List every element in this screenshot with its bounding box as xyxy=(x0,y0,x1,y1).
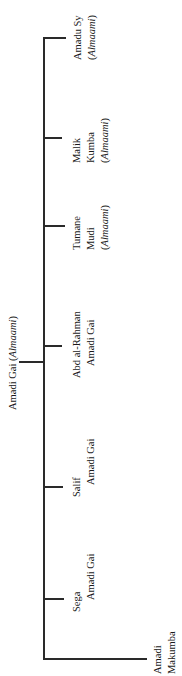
branch-abd-al-rahman xyxy=(43,345,62,347)
node-name-line2: Amadi Gai xyxy=(84,311,98,378)
node-name-line1: Sega xyxy=(70,554,84,612)
trunk-line xyxy=(43,37,45,659)
node-name-line1: Salif xyxy=(70,439,84,497)
parent-connector xyxy=(19,361,44,363)
node-name-line2: Amadi Gai xyxy=(84,439,98,497)
branch-tumane-mudi xyxy=(43,225,65,227)
node-name-line1: Malik xyxy=(70,118,84,163)
node-abd-al-rahman: Abd al-Rahman Amadi Gai xyxy=(70,311,98,378)
node-name-line2: Amadi Gai xyxy=(84,554,98,612)
node-title: Almaami xyxy=(99,209,110,247)
node-name-line2: Kumba xyxy=(84,118,98,163)
node-title: Almaami xyxy=(86,19,97,57)
parent-title: Almaami xyxy=(7,320,18,358)
node-amadu-sy: Amadu Sy (Almaami) xyxy=(71,15,99,60)
node-name-line1: Amadi xyxy=(151,631,165,674)
node-name-line2: Mudi xyxy=(84,205,98,250)
node-name: Amadu Sy xyxy=(71,15,85,60)
node-name-line1: Tumane xyxy=(70,205,84,250)
node-tumane-mudi: Tumane Mudi (Almaami) xyxy=(70,205,112,250)
node-amadi-makumba: Amadi Makumba xyxy=(151,631,179,674)
node-sega: Sega Amadi Gai xyxy=(70,554,98,612)
node-title: Almaami xyxy=(99,122,110,160)
parent-name: Amadi Gai xyxy=(7,364,18,410)
branch-amadi-makumba xyxy=(43,658,147,660)
branch-salif xyxy=(43,486,63,488)
branch-sega xyxy=(43,598,64,600)
node-name-line2: Makumba xyxy=(165,631,179,674)
node-malik-kumba: Malik Kumba (Almaami) xyxy=(70,118,112,163)
parent-label: Amadi Gai (Almaami) xyxy=(6,316,20,410)
node-salif: Salif Amadi Gai xyxy=(70,439,98,497)
node-name-line1: Abd al-Rahman xyxy=(70,311,84,378)
branch-malik-kumba xyxy=(43,137,62,139)
branch-amadu-sy xyxy=(43,37,66,39)
